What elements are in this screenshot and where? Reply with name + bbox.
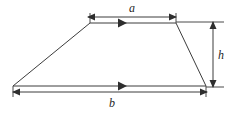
top-edge-direction-arrow-icon: [118, 19, 127, 28]
trapezoid-outline: [13, 23, 206, 86]
trapezoid-diagram: a b h: [0, 0, 232, 115]
dimension-label-b: b: [109, 96, 115, 110]
dimension-b-right-arrowhead-icon: [200, 89, 208, 96]
bottom-edge-direction-arrow-icon: [118, 82, 127, 91]
dimension-label-a: a: [129, 1, 135, 15]
dimension-label-h: h: [218, 48, 224, 62]
diagram-canvas: a b h: [0, 0, 232, 115]
dimension-a-left-arrowhead-icon: [87, 14, 95, 21]
